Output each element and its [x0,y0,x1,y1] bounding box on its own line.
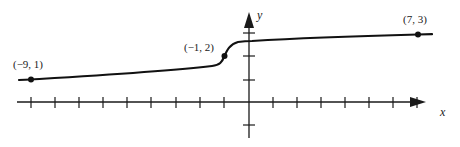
point-a-label: (−9, 1) [13,58,43,71]
function-graph: x y (−9, 1) (−1, 2) (7, 3) [0,0,460,147]
y-axis-label: y [256,8,263,22]
point-b-label: (−1, 2) [184,41,214,54]
point-b-marker [222,53,228,59]
y-axis: y [243,8,263,138]
point-a-marker [28,77,34,83]
point-c-label: (7, 3) [403,13,427,26]
x-axis: x [17,97,446,119]
x-axis-arrow-icon [410,97,426,107]
point-c-marker [415,32,421,38]
y-axis-arrow-icon [244,12,254,28]
x-axis-label: x [439,105,446,119]
